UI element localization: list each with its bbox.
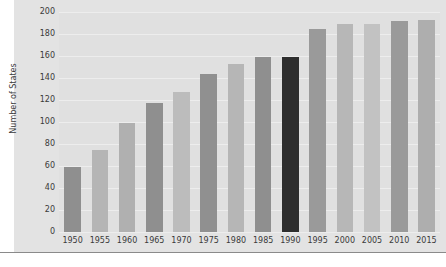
bar-2010[interactable] xyxy=(391,21,408,232)
gridline xyxy=(59,232,440,233)
bar-slot[interactable] xyxy=(250,12,277,232)
bar-slot[interactable] xyxy=(222,12,249,232)
y-axis-tick-label: 80 xyxy=(25,140,55,148)
x-axis-tick-label-2005: 2005 xyxy=(358,236,385,245)
bar-slot[interactable] xyxy=(168,12,195,232)
y-axis-title: Number of States xyxy=(9,59,18,139)
y-axis-tick-label: 200 xyxy=(25,8,55,16)
bar-slot[interactable] xyxy=(386,12,413,232)
x-axis-tick-label-1950: 1950 xyxy=(59,236,86,245)
chart-figure: 020406080100120140160180200 Number of St… xyxy=(0,0,446,267)
bar-1980[interactable] xyxy=(228,64,245,232)
y-axis-tick-label: 160 xyxy=(25,52,55,60)
x-axis-tick-label-1995: 1995 xyxy=(304,236,331,245)
bar-1950[interactable] xyxy=(64,167,81,232)
bar-1975[interactable] xyxy=(200,74,217,232)
y-axis-tick-label: 60 xyxy=(25,162,55,170)
y-axis-tick-label: 0 xyxy=(25,228,55,236)
x-axis-tick-label-1985: 1985 xyxy=(250,236,277,245)
x-axis-tick-label-1960: 1960 xyxy=(113,236,140,245)
x-axis-tick-label-1975: 1975 xyxy=(195,236,222,245)
bar-slot[interactable] xyxy=(413,12,440,232)
bar-1990[interactable] xyxy=(282,57,299,232)
y-axis-tick-label: 120 xyxy=(25,96,55,104)
x-axis-tick-label-1955: 1955 xyxy=(86,236,113,245)
bottom-divider xyxy=(0,252,446,253)
bar-slot[interactable] xyxy=(86,12,113,232)
x-axis-tick-label-1980: 1980 xyxy=(222,236,249,245)
y-axis-tick-label: 140 xyxy=(25,74,55,82)
bar-slot[interactable] xyxy=(59,12,86,232)
x-axis-tick-label-1970: 1970 xyxy=(168,236,195,245)
y-axis-tick-label: 180 xyxy=(25,30,55,38)
y-axis-tick-labels: 020406080100120140160180200 xyxy=(22,12,55,232)
bar-1970[interactable] xyxy=(173,92,190,232)
y-axis-tick-label: 40 xyxy=(25,184,55,192)
bar-1960[interactable] xyxy=(119,123,136,232)
bar-slot[interactable] xyxy=(195,12,222,232)
x-axis-tick-label-1990: 1990 xyxy=(277,236,304,245)
bar-series xyxy=(59,12,440,232)
bar-slot[interactable] xyxy=(113,12,140,232)
bar-2005[interactable] xyxy=(364,24,381,232)
x-axis-tick-label-2000: 2000 xyxy=(331,236,358,245)
y-axis-tick-label: 20 xyxy=(25,206,55,214)
bar-1965[interactable] xyxy=(146,103,163,232)
x-axis-tick-label-2010: 2010 xyxy=(386,236,413,245)
bar-2000[interactable] xyxy=(337,24,354,232)
bar-slot[interactable] xyxy=(304,12,331,232)
bar-slot[interactable] xyxy=(277,12,304,232)
bar-slot[interactable] xyxy=(141,12,168,232)
bar-slot[interactable] xyxy=(331,12,358,232)
bar-1985[interactable] xyxy=(255,57,272,232)
x-axis-tick-label-1965: 1965 xyxy=(141,236,168,245)
bar-1955[interactable] xyxy=(92,150,109,233)
x-axis-tick-label-2015: 2015 xyxy=(413,236,440,245)
bar-slot[interactable] xyxy=(358,12,385,232)
x-axis-tick-labels: 1950195519601965197019751980198519901995… xyxy=(59,236,440,245)
bar-2015[interactable] xyxy=(418,20,435,232)
bar-1995[interactable] xyxy=(309,29,326,233)
y-axis-tick-label: 100 xyxy=(25,118,55,126)
